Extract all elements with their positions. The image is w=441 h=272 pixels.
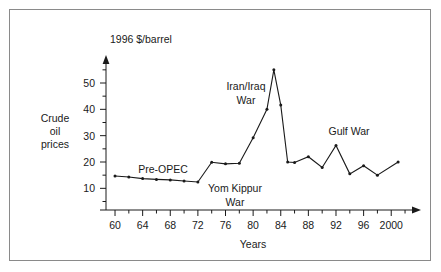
data-point-marker	[196, 181, 199, 184]
data-point-marker	[141, 177, 144, 180]
x-tick-label-60: 60	[109, 219, 121, 231]
x-tick-label-64: 64	[137, 219, 149, 231]
figure-frame: 10 20 30 40 50	[9, 9, 431, 261]
data-point-marker	[321, 166, 324, 169]
x-tick-label-96: 96	[358, 219, 370, 231]
x-tick-label-80: 80	[247, 219, 259, 231]
data-point-marker	[272, 68, 275, 71]
y-tick-label-50: 50	[83, 77, 95, 89]
data-point-marker	[252, 136, 255, 139]
annotation-gulf-war-label: Gulf War	[328, 125, 370, 137]
y-tick-label-10: 10	[83, 182, 95, 194]
y-axis-title: Crude oil prices	[41, 112, 70, 150]
x-axis-title: Years	[240, 238, 266, 250]
x-tick-label-72: 72	[192, 219, 204, 231]
data-point-marker	[169, 178, 172, 181]
annotation-iran-iraq-war: Iran/Iraq War	[226, 80, 265, 106]
y-axis-title-line-2: oil	[50, 125, 61, 137]
x-tick-label-92: 92	[330, 219, 342, 231]
x-tick-label-84: 84	[275, 219, 287, 231]
data-point-marker	[397, 161, 400, 164]
data-point-marker	[307, 155, 310, 158]
x-axis-tick-labels: 60 64 68 72 76 80 84 88 92 96 2000	[109, 219, 403, 231]
data-point-marker	[279, 104, 282, 107]
data-point-marker	[293, 161, 296, 164]
y-tick-label-40: 40	[83, 103, 95, 115]
annotation-iran-iraq-war-line-1: Iran/Iraq	[226, 80, 265, 92]
annotation-pre-opec: Pre-OPEC	[138, 163, 188, 175]
data-point-marker	[238, 162, 241, 165]
y-axis-major-ticks	[100, 83, 106, 188]
data-point-marker	[224, 162, 227, 165]
data-point-marker	[334, 144, 337, 147]
y-axis	[103, 55, 110, 210]
data-point-marker	[362, 164, 365, 167]
annotation-yom-kippur-war-line-2: War	[226, 196, 245, 208]
data-point-marker	[376, 174, 379, 177]
data-point-marker	[286, 161, 289, 164]
x-tick-label-88: 88	[303, 219, 315, 231]
data-point-marker	[210, 161, 213, 164]
y-tick-label-30: 30	[83, 130, 95, 142]
y-axis-tick-labels: 10 20 30 40 50	[83, 77, 95, 194]
crude-oil-prices-line-chart: 10 20 30 40 50	[10, 10, 430, 260]
y-tick-label-20: 20	[83, 156, 95, 168]
annotation-gulf-war: Gulf War	[328, 125, 370, 137]
data-point-marker	[155, 178, 158, 181]
data-point-marker	[265, 108, 268, 111]
y-axis-arrow-icon	[103, 55, 110, 64]
x-tick-label-68: 68	[164, 219, 176, 231]
data-point-marker	[127, 176, 130, 179]
annotation-pre-opec-label: Pre-OPEC	[138, 163, 188, 175]
data-point-marker	[348, 172, 351, 175]
x-tick-label-2000: 2000	[380, 219, 404, 231]
y-axis-title-line-1: Crude	[41, 112, 70, 124]
x-axis	[100, 207, 421, 214]
annotation-yom-kippur-war: Yom Kippur War	[208, 182, 262, 208]
y-axis-unit-label: 1996 $/barrel	[110, 33, 172, 45]
annotation-iran-iraq-war-line-2: War	[237, 94, 256, 106]
x-axis-arrow-icon	[412, 207, 421, 214]
data-point-marker	[114, 174, 117, 177]
data-point-marker	[183, 179, 186, 182]
annotation-yom-kippur-war-line-1: Yom Kippur	[208, 182, 262, 194]
x-tick-label-76: 76	[220, 219, 232, 231]
y-axis-title-line-3: prices	[41, 138, 69, 150]
